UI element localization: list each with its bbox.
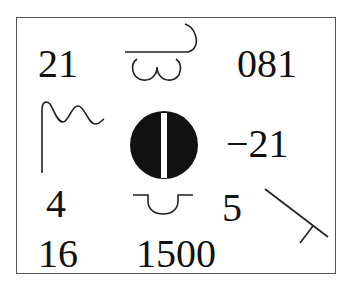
diagonal-t-symbol	[0, 0, 352, 291]
